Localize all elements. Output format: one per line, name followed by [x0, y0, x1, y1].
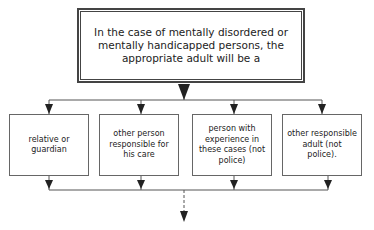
option-text: person with experience in these cases (n…: [197, 124, 267, 166]
option-text: other person responsible for his care: [104, 129, 174, 161]
option-box-relative: relative or guardian: [9, 114, 89, 176]
option-box-other-adult: other responsible adult (not police).: [282, 114, 362, 176]
option-text: relative or guardian: [14, 135, 84, 156]
heading-text: In the case of mentally disordered or me…: [89, 26, 293, 65]
option-box-experienced: person with experience in these cases (n…: [192, 114, 272, 176]
appropriate-adult-heading-box: In the case of mentally disordered or me…: [80, 11, 302, 80]
continue-down-arrow-icon: [180, 211, 188, 222]
option-text: other responsible adult (not police).: [287, 129, 357, 161]
option-box-carer: other person responsible for his care: [99, 114, 179, 176]
main-down-arrow-icon: [178, 84, 190, 100]
